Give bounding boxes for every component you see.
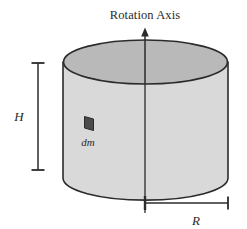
cylinder-rotation-diagram: Rotation Axis H R dm (0, 0, 247, 229)
mass-element-label: dm (81, 136, 95, 148)
rotation-axis-title: Rotation Axis (110, 8, 180, 22)
radius-label: R (191, 213, 200, 228)
diagram-canvas: Rotation Axis H R dm (0, 0, 247, 229)
parallelogram-patch-icon (85, 117, 94, 131)
height-label: H (13, 109, 24, 124)
